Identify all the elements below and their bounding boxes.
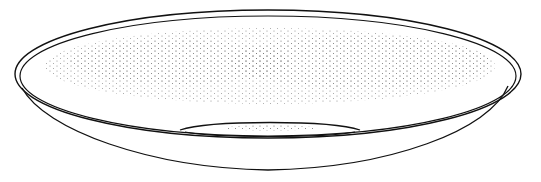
foot-stipple [225,125,315,131]
dish-drawing [0,0,541,182]
stippled-interior [45,28,495,104]
dish-illustration [0,0,541,182]
